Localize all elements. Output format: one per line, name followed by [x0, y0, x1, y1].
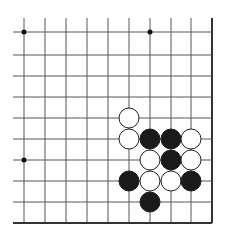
black-stone[interactable]: [140, 192, 160, 212]
black-stone[interactable]: [161, 150, 181, 170]
white-stone[interactable]: [140, 150, 160, 170]
white-stone[interactable]: [181, 129, 201, 149]
white-stone[interactable]: [161, 171, 181, 191]
white-stone[interactable]: [140, 171, 160, 191]
star-point: [22, 158, 27, 163]
black-stone[interactable]: [181, 171, 201, 191]
white-stone[interactable]: [119, 108, 139, 128]
star-point: [22, 30, 27, 35]
black-stone[interactable]: [119, 171, 139, 191]
white-stone[interactable]: [119, 129, 139, 149]
star-point: [148, 30, 153, 35]
white-stone[interactable]: [181, 150, 201, 170]
go-board[interactable]: [0, 0, 226, 237]
board-grid: [13, 18, 212, 223]
black-stone[interactable]: [161, 129, 181, 149]
black-stone[interactable]: [140, 129, 160, 149]
